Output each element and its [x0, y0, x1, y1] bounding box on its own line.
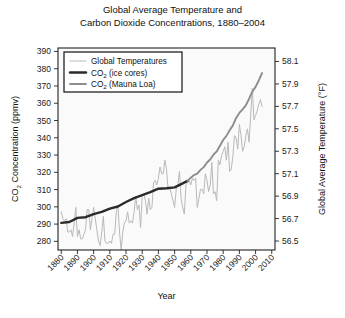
y-axis-tick-label: 370 — [37, 81, 51, 91]
y-axis-tick-label: 330 — [37, 150, 51, 160]
y-axis-tick-label: 350 — [37, 116, 51, 126]
y2-axis-title: Global Average Temperature (°F) — [317, 83, 327, 215]
y-axis-tick-label: 310 — [37, 185, 51, 195]
y-axis-title: CO2 Concentration (ppmv) — [10, 96, 22, 202]
chart-figure: Global Average Temperature and Carbon Di… — [0, 0, 345, 318]
y-axis-tick-label: 360 — [37, 98, 51, 108]
x-axis-tick-label: 1950 — [159, 252, 180, 273]
y2-axis-tick-label: 58.1 — [282, 56, 299, 66]
legend-label: Global Temperatures — [91, 57, 167, 66]
y-axis-tick-label: 340 — [37, 133, 51, 143]
y2-axis-tick-label: 56.9 — [282, 191, 299, 201]
y2-axis-tick-label: 56.7 — [282, 214, 299, 224]
legend-label: CO2 (ice cores) — [91, 69, 147, 79]
y2-axis-tick-label: 57.7 — [282, 101, 299, 111]
y-axis-tick-label: 300 — [37, 202, 51, 212]
x-axis-tick-label: 1960 — [175, 252, 196, 273]
y2-axis-tick-label: 57.1 — [282, 169, 299, 179]
x-axis-title: Year — [157, 291, 175, 301]
y-axis-tick-label: 320 — [37, 167, 51, 177]
y-axis-tick-label: 390 — [37, 46, 51, 56]
y-axis-tick-label: 290 — [37, 219, 51, 229]
chart-plot: 28029030031032033034035036037038039056.5… — [0, 0, 345, 318]
y2-axis-tick-label: 57.9 — [282, 79, 299, 89]
x-axis-tick-label: 2010 — [256, 252, 277, 273]
x-axis-tick-label: 1880 — [45, 252, 66, 273]
x-axis-tick-label: 1890 — [61, 252, 82, 273]
y-axis-tick-label: 280 — [37, 236, 51, 246]
x-axis-tick-label: 1900 — [78, 252, 99, 273]
x-axis-tick-label: 1910 — [94, 252, 115, 273]
x-axis-tick-label: 1990 — [223, 252, 244, 273]
y2-axis-tick-label: 57.3 — [282, 146, 299, 156]
y2-axis-tick-label: 56.5 — [282, 236, 299, 246]
x-axis-tick-label: 1940 — [142, 252, 163, 273]
legend-label: CO2 (Mauna Loa) — [91, 80, 156, 90]
x-axis-tick-label: 1970 — [191, 252, 212, 273]
x-axis-tick-label: 1930 — [126, 252, 147, 273]
x-axis-tick-label: 1980 — [207, 252, 228, 273]
x-axis-tick-label: 1920 — [110, 252, 131, 273]
x-axis-tick-label: 2000 — [240, 252, 261, 273]
y-axis-tick-label: 380 — [37, 64, 51, 74]
y2-axis-tick-label: 57.5 — [282, 124, 299, 134]
